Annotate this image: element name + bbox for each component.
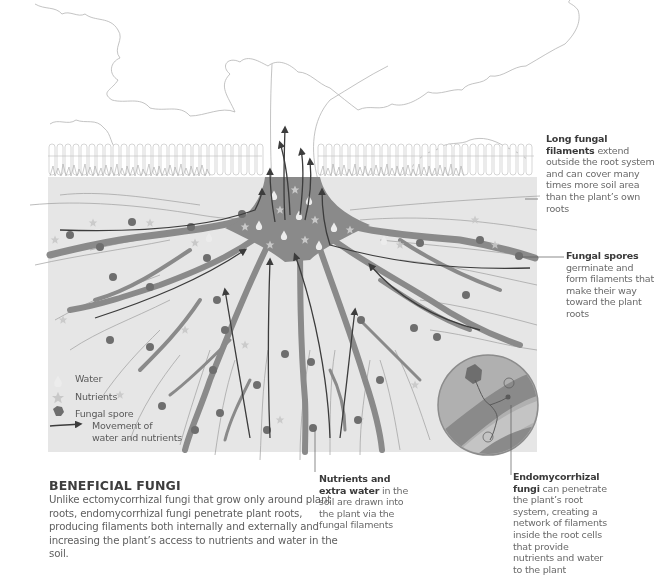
callout-spores-text: germinate and form filaments that make t…	[566, 262, 654, 319]
legend-movement-1: Movement of	[92, 420, 152, 431]
callout-spores-bold: Fungal spores	[566, 250, 638, 261]
callout-endo-text: can penetrate the plant’s root system, c…	[513, 483, 607, 575]
legend-nutrients: Nutrients	[75, 391, 117, 402]
callout-long-filaments: Long fungal filaments extend outside the…	[546, 133, 655, 214]
legend-movement-2: water and nutrients	[92, 432, 182, 443]
legend-fungal-spore: Fungal spore	[75, 408, 133, 419]
section-title: BENEFICIAL FUNGI	[49, 478, 181, 493]
legend-water: Water	[75, 373, 102, 384]
callout-spores: Fungal spores germinate and form filamen…	[566, 250, 654, 320]
callout-endomycorrhizal: Endomycorrhizal fungi can penetrate the …	[513, 471, 611, 575]
section-body: Unlike ectomycorrhizal fungi that grow o…	[49, 493, 349, 561]
